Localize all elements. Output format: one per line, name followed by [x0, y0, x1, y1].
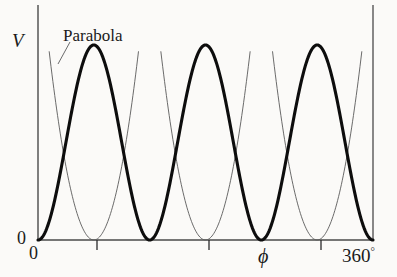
parabola-curve-2: [161, 51, 250, 240]
parabola-annotation-label: Parabola: [63, 26, 122, 46]
potential-curve: [38, 45, 373, 240]
x-axis-ticks: [97, 240, 321, 250]
degree-symbol: °: [371, 245, 375, 257]
x-axis-max-label: 360°: [342, 245, 375, 267]
x-axis-label: ϕ: [258, 245, 268, 268]
parabola-curve-1: [49, 51, 138, 240]
parabola-curves: [49, 51, 362, 240]
parabola-curve-3: [273, 51, 362, 240]
y-axis-origin-label: 0: [17, 228, 26, 249]
potential-energy-chart: V 0 0 ϕ 360° Parabola: [0, 0, 397, 277]
y-axis-label: V: [12, 30, 24, 52]
x-axis-max-value: 360: [342, 245, 371, 266]
x-axis-origin-label: 0: [29, 243, 38, 264]
chart-svg: [0, 0, 397, 277]
